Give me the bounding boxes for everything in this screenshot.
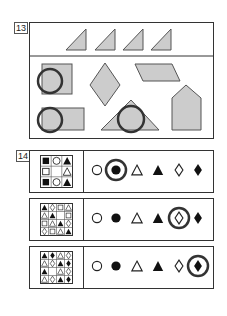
row-1: [30, 151, 214, 193]
answer-circle: [169, 208, 189, 228]
question-14-figures: [0, 0, 227, 316]
row-3: [30, 247, 214, 289]
row-2: [30, 199, 214, 241]
